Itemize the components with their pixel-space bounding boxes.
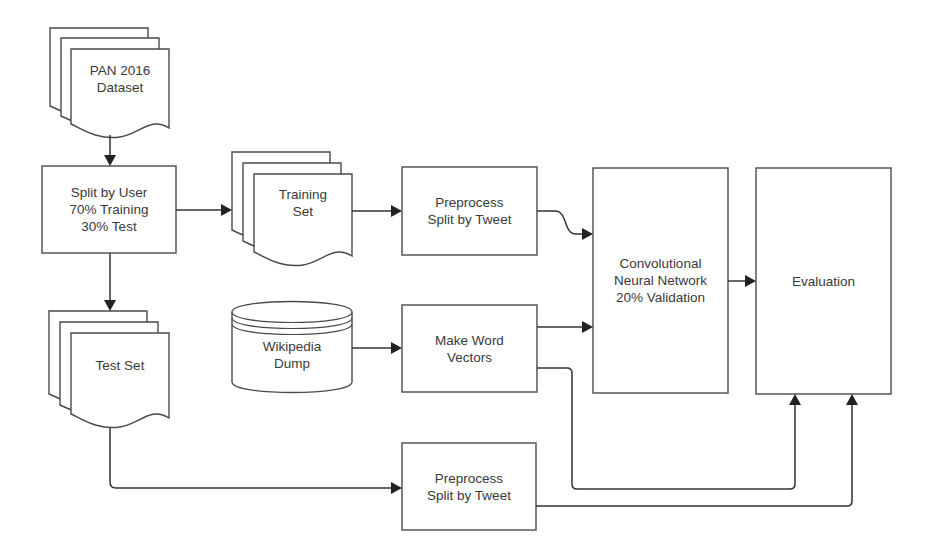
evaluation-label: Evaluation bbox=[756, 168, 891, 394]
edge-pan-to-split bbox=[104, 135, 116, 166]
edge-wordvectors-to-cnn bbox=[537, 321, 593, 333]
pan-dataset-label: PAN 2016 Dataset bbox=[71, 52, 169, 106]
edge-wikipedia-to-wordvectors bbox=[352, 342, 402, 354]
make-word-vectors-label: Make Word Vectors bbox=[402, 305, 537, 392]
edge-split-to-training bbox=[176, 204, 232, 216]
edge-split-to-test bbox=[104, 253, 116, 311]
wikipedia-dump-label: Wikipedia Dump bbox=[232, 330, 352, 380]
edge-cnn-to-evaluation bbox=[728, 275, 756, 287]
preprocess-train-label: Preprocess Split by Tweet bbox=[402, 167, 537, 255]
cnn-label: Convolutional Neural Network 20% Validat… bbox=[593, 168, 728, 393]
test-set-label: Test Set bbox=[71, 345, 169, 385]
preprocess-test-label: Preprocess Split by Tweet bbox=[402, 443, 536, 530]
edge-preprocess-to-cnn bbox=[537, 211, 593, 240]
split-by-user-label: Split by User 70% Training 30% Test bbox=[42, 166, 176, 253]
edge-test-to-preprocess bbox=[110, 428, 402, 494]
edge-training-to-preprocess bbox=[352, 205, 402, 217]
training-set-label: Training Set bbox=[254, 176, 352, 230]
